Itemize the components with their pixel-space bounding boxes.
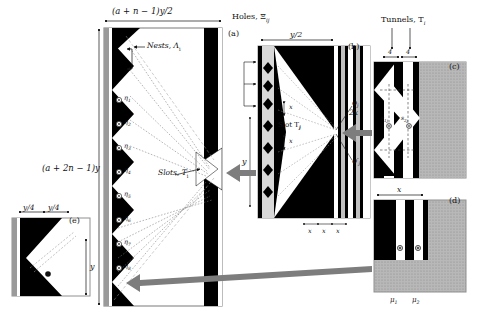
middle-bottom-x3: x xyxy=(336,227,340,235)
slots-subscript: i xyxy=(187,173,189,179)
main-top-dimension-label: (a + n − 1)y/2 xyxy=(112,6,173,16)
panel-c-marker-1-label: s1j xyxy=(381,114,388,123)
middle-top-dimension-label: y/2 xyxy=(290,30,302,39)
slots-label: Slots, Ti xyxy=(158,168,188,179)
eta-4-label: η4 xyxy=(124,166,131,175)
panel-c-dim-right: 4 xyxy=(406,48,410,56)
middle-bottom-x1: x xyxy=(308,227,312,235)
middle-spacing-lower-label: x xyxy=(289,137,293,145)
panel-d-label: (d) xyxy=(449,196,460,205)
middle-left-brackets xyxy=(244,62,256,206)
nests-subscript: i xyxy=(179,46,181,52)
panel-d xyxy=(374,195,466,292)
panel-b-label: (b) xyxy=(348,42,359,51)
phi-label: φj xyxy=(352,99,358,108)
middle-slot-label: Slot Tj xyxy=(278,120,301,130)
middle-left-dimension-label: y xyxy=(242,157,247,166)
main-left-rail xyxy=(104,28,109,306)
panel-e-right-dimension-label: y xyxy=(90,262,95,271)
slot-subscript: j xyxy=(299,125,301,130)
eta-8-label: η8 xyxy=(124,262,131,271)
eta-1-label: η1 xyxy=(124,94,131,103)
eta-6-label: η6 xyxy=(124,214,131,223)
panel-d-top-dimension-label: x xyxy=(397,185,401,194)
tunnels-leaders xyxy=(392,28,410,48)
holes-subscript: ij xyxy=(266,17,269,23)
panel-c-dim-left: 4 xyxy=(388,48,392,56)
eta-2-label: η2 xyxy=(124,118,131,127)
eta-3-label: η3 xyxy=(124,142,131,151)
panel-e-marker xyxy=(45,271,51,277)
eta-7-label: η7 xyxy=(124,238,131,247)
eta-5-label: η5 xyxy=(124,190,131,199)
holes-label: Holes, Ξij xyxy=(232,12,269,23)
panel-e-label: (e) xyxy=(69,216,80,225)
panel-e-dim-right-label: y/4 xyxy=(48,203,60,212)
main-panel xyxy=(99,21,222,306)
nests-label: Nests, Λi xyxy=(147,41,181,52)
panel-d-mu2-label: μ2 xyxy=(412,296,420,305)
panel-c-marker-2-label: s2j xyxy=(401,114,408,123)
panel-e-dim-left-label: y/4 xyxy=(23,203,35,212)
tunnels-label: Tunnels, Ti xyxy=(381,15,425,26)
middle-spacing-upper-label: x xyxy=(289,103,293,111)
arrow-middle-to-main xyxy=(226,164,256,182)
main-left-dimension-label: (a + 2n − 1)y xyxy=(42,163,100,173)
middle-bottom-x2: x xyxy=(322,227,326,235)
phi-prime-label: φ′j xyxy=(352,157,360,166)
panel-c-label: (c) xyxy=(449,62,460,71)
panel-d-mu1-label: μ1 xyxy=(390,296,398,305)
panel-a-label: (a) xyxy=(228,29,239,38)
tunnels-subscript: i xyxy=(424,20,426,26)
middle-center-dimension-label: 2x xyxy=(349,108,358,117)
